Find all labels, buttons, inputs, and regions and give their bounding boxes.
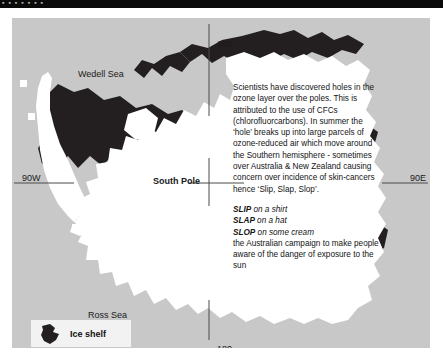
ozone-info-text-block: Scientists have discovered holes in the … [233, 82, 379, 272]
label-longitude-180-top: 180 [217, 39, 232, 49]
label-south-pole: South Pole [153, 176, 200, 186]
slogan-word: SLOP [233, 228, 255, 237]
label-longitude-90e: 90E [410, 173, 426, 183]
top-cropped-header-strip: ▪ ▪ ▪ ▪ ▪ ▪ ▪ [0, 0, 443, 8]
antarctica-map-panel: Wedell Sea Ross Sea South Pole 90W 90E 1… [12, 18, 430, 348]
slogan-rest: on some cream [255, 228, 314, 237]
map-legend: Ice shelf [31, 320, 131, 347]
slip-slap-slop-slogan-list: SLIP on a shirt SLAP on a hat SLOP on so… [233, 204, 379, 272]
label-longitude-180-bottom: 180 [217, 344, 232, 348]
ozone-info-paragraph: Scientists have discovered holes in the … [233, 82, 379, 195]
ice-shelf-swatch-icon [38, 323, 64, 345]
slogan-line: SLOP on some cream [233, 227, 379, 238]
legend-label: Ice shelf [70, 329, 106, 339]
label-ross-sea: Ross Sea [88, 310, 127, 320]
slogan-line: SLIP on a shirt [233, 204, 379, 215]
slogan-word: SLAP [233, 216, 255, 225]
slogan-rest: on a shirt [251, 205, 287, 214]
label-longitude-90w: 90W [22, 173, 41, 183]
slogan-line: SLAP on a hat [233, 215, 379, 226]
slogan-rest: on a hat [255, 216, 287, 225]
top-strip-text: ▪ ▪ ▪ ▪ ▪ ▪ ▪ [2, 0, 44, 7]
campaign-description: the Australian campaign to make people a… [233, 238, 379, 272]
slogan-word: SLIP [233, 205, 251, 214]
label-wedell-sea: Wedell Sea [78, 69, 124, 79]
